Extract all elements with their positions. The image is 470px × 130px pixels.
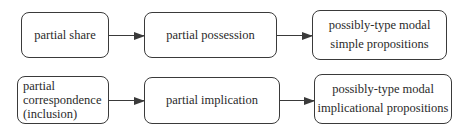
node-label-line-1: possibly-type modal — [329, 16, 431, 35]
node-label: partial implication — [166, 91, 258, 110]
node-label-line-1: possibly-type modal — [332, 80, 434, 99]
node-partial-implication: partial implication — [144, 77, 280, 124]
arrow-share-to-possession — [109, 35, 144, 36]
node-possibly-type-modal-simple: possibly-type modal simple propositions — [312, 10, 447, 60]
node-label: partial share — [34, 26, 95, 45]
node-possibly-type-modal-implicational: possibly-type modal implicational propos… — [314, 74, 452, 124]
arrow-correspondence-to-implication — [109, 100, 144, 101]
node-partial-possession: partial possession — [144, 12, 277, 58]
arrow-implication-to-modal-implicational — [280, 100, 314, 101]
node-label-line-1: partial — [23, 79, 55, 93]
node-label: partial possession — [166, 26, 255, 45]
node-partial-correspondence: partial correspondence (inclusion) — [17, 76, 109, 124]
arrow-possession-to-modal-simple — [277, 35, 312, 36]
node-label-line-2: implicational propositions — [318, 99, 449, 118]
node-partial-share: partial share — [21, 12, 109, 58]
node-label-line-2: simple propositions — [330, 35, 428, 54]
node-label-line-2: correspondence — [23, 93, 101, 107]
node-label-line-3: (inclusion) — [23, 107, 77, 121]
